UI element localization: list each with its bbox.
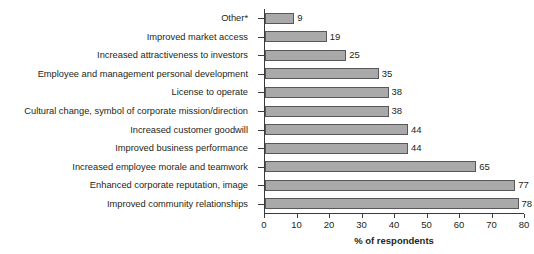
value-tick-mark	[394, 214, 395, 218]
bar-row: 78	[265, 194, 534, 213]
bar[interactable]	[265, 143, 408, 154]
category-label-row: Improved community relationships	[0, 194, 252, 213]
value-tick-mark	[492, 214, 493, 218]
category-label-row: License to operate	[0, 83, 252, 102]
category-label: Improved business performance	[115, 143, 248, 153]
category-tick	[256, 157, 265, 176]
category-label: Improved community relationships	[107, 199, 248, 209]
bar-row: 38	[265, 83, 534, 102]
category-axis-ticks	[256, 9, 265, 213]
bar-value-label: 44	[411, 125, 422, 135]
tick-mark	[258, 92, 264, 93]
category-label-row: Employee and management personal develop…	[0, 65, 252, 84]
category-label: Increased attractiveness to investors	[97, 50, 248, 60]
value-tick-label: 40	[389, 219, 400, 230]
bar-row: 77	[265, 176, 534, 195]
value-tick-mark	[459, 214, 460, 218]
category-label: Improved market access	[147, 32, 248, 42]
bar-chart: Other* Improved market access Increased …	[0, 0, 534, 254]
category-label-row: Improved business performance	[0, 139, 252, 158]
bar-row: 65	[265, 157, 534, 176]
category-axis-labels: Other* Improved market access Increased …	[0, 9, 252, 213]
category-tick	[256, 83, 265, 102]
tick-mark	[258, 167, 264, 168]
category-tick	[256, 194, 265, 213]
tick-mark	[258, 18, 264, 19]
category-label-row: Increased customer goodwill	[0, 120, 252, 139]
value-tick-mark	[297, 214, 298, 218]
category-label-row: Increased attractiveness to investors	[0, 46, 252, 65]
category-label: License to operate	[172, 87, 249, 97]
value-tick-mark	[524, 214, 525, 218]
category-label: Increased customer goodwill	[130, 125, 248, 135]
bars-layer: 9 19 25 35 38 38	[265, 9, 534, 213]
bar-value-label: 77	[518, 180, 529, 190]
value-tick-mark	[362, 214, 363, 218]
tick-mark	[258, 55, 264, 56]
bar[interactable]	[265, 124, 408, 135]
value-axis-title: % of respondents	[264, 235, 524, 246]
bar-row: 9	[265, 9, 534, 28]
value-tick-label: 10	[291, 219, 302, 230]
bar[interactable]	[265, 180, 515, 191]
category-label: Cultural change, symbol of corporate mis…	[24, 106, 248, 116]
category-label: Enhanced corporate reputation, image	[90, 180, 248, 190]
bar[interactable]	[265, 13, 294, 24]
value-tick-label: 70	[486, 219, 497, 230]
bar-value-label: 9	[297, 13, 302, 23]
value-tick-mark	[264, 214, 265, 218]
bar-value-label: 38	[392, 106, 403, 116]
bar[interactable]	[265, 87, 389, 98]
category-label-row: Improved market access	[0, 28, 252, 47]
value-tick-label: 60	[454, 219, 465, 230]
bar-value-label: 65	[479, 162, 490, 172]
category-label-row: Enhanced corporate reputation, image	[0, 176, 252, 195]
category-label-row: Increased employee morale and teamwork	[0, 157, 252, 176]
category-tick	[256, 120, 265, 139]
value-tick-label: 50	[421, 219, 432, 230]
value-tick-mark	[427, 214, 428, 218]
category-tick	[256, 28, 265, 47]
category-label: Increased employee morale and teamwork	[72, 162, 248, 172]
bar-row: 44	[265, 139, 534, 158]
bar[interactable]	[265, 50, 346, 61]
bar[interactable]	[265, 68, 379, 79]
value-tick-mark	[329, 214, 330, 218]
bar-value-label: 19	[330, 32, 341, 42]
category-label: Other*	[221, 13, 248, 23]
tick-mark	[258, 204, 264, 205]
bar[interactable]	[265, 106, 389, 117]
bar-row: 44	[265, 120, 534, 139]
bar-value-label: 78	[522, 199, 533, 209]
tick-mark	[258, 111, 264, 112]
category-tick	[256, 176, 265, 195]
value-tick-label: 0	[261, 219, 266, 230]
tick-mark	[258, 148, 264, 149]
value-tick-label: 20	[324, 219, 335, 230]
tick-mark	[258, 74, 264, 75]
bar-value-label: 25	[349, 50, 360, 60]
bar[interactable]	[265, 198, 519, 209]
bar-value-label: 35	[382, 69, 393, 79]
category-label-row: Cultural change, symbol of corporate mis…	[0, 102, 252, 121]
category-label-row: Other*	[0, 9, 252, 28]
plot-area: 9 19 25 35 38 38	[256, 9, 534, 213]
value-axis: 01020304050607080 % of respondents	[264, 213, 526, 253]
value-tick-label: 80	[519, 219, 530, 230]
bar-row: 35	[265, 65, 534, 84]
bar-value-label: 38	[392, 87, 403, 97]
tick-mark	[258, 130, 264, 131]
bar-value-label: 44	[411, 143, 422, 153]
category-tick	[256, 46, 265, 65]
tick-mark	[258, 37, 264, 38]
bar-row: 38	[265, 102, 534, 121]
category-tick	[256, 139, 265, 158]
bar[interactable]	[265, 161, 476, 172]
bar[interactable]	[265, 31, 327, 42]
category-tick	[256, 102, 265, 121]
category-tick	[256, 65, 265, 84]
category-tick	[256, 9, 265, 28]
bar-row: 25	[265, 46, 534, 65]
category-label: Employee and management personal develop…	[38, 69, 248, 79]
tick-mark	[258, 185, 264, 186]
